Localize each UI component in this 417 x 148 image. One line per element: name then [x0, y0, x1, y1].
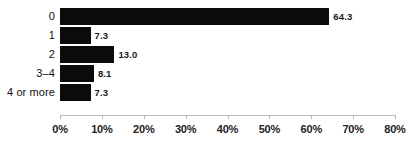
x-axis-tick-label: 20%: [133, 122, 154, 136]
x-axis-tick: [186, 115, 187, 119]
x-axis-tick-label: 70%: [342, 122, 363, 136]
bar-2: [60, 46, 114, 63]
x-axis-tick-label: 40%: [217, 122, 238, 136]
x-axis-tick: [395, 115, 396, 119]
x-axis-tick-label: 0%: [52, 122, 68, 136]
x-axis: 0%10%20%30%40%50%60%70%80%: [0, 112, 417, 148]
value-label-2: 13.0: [118, 46, 137, 63]
category-label: 1: [0, 27, 55, 44]
value-label-4: 7.3: [95, 84, 109, 101]
x-axis-tick-label: 60%: [301, 122, 322, 136]
value-label-3: 8.1: [98, 65, 112, 82]
x-axis-tick: [311, 115, 312, 119]
category-label: 0: [0, 8, 55, 25]
x-axis-tick: [60, 115, 61, 119]
x-axis-tick-label: 50%: [259, 122, 280, 136]
value-label-1: 7.3: [95, 27, 109, 44]
bar-chart: 0 64.3 1 7.3 2 13.0 3–4 8.1 4 or more 7.…: [0, 0, 417, 148]
x-axis-tick-label: 10%: [91, 122, 112, 136]
value-label-0: 64.3: [333, 8, 352, 25]
bar-row: 0 64.3: [0, 7, 417, 26]
x-axis-tick: [144, 115, 145, 119]
category-label: 4 or more: [0, 84, 55, 101]
bar-4: [60, 84, 91, 101]
bar-0: [60, 8, 329, 25]
x-axis-tick: [269, 115, 270, 119]
bar-row: 3–4 8.1: [0, 64, 417, 83]
category-label: 3–4: [0, 65, 55, 82]
bar-row: 2 13.0: [0, 45, 417, 64]
x-axis-tick: [228, 115, 229, 119]
x-axis-tick: [353, 115, 354, 119]
category-label: 2: [0, 46, 55, 63]
bar-1: [60, 27, 91, 44]
x-axis-tick: [102, 115, 103, 119]
bar-row: 4 or more 7.3: [0, 83, 417, 102]
bar-3: [60, 65, 94, 82]
x-axis-tick-label: 80%: [384, 122, 405, 136]
plot-area: 0 64.3 1 7.3 2 13.0 3–4 8.1 4 or more 7.…: [0, 0, 417, 112]
bar-row: 1 7.3: [0, 26, 417, 45]
x-axis-tick-label: 30%: [175, 122, 196, 136]
